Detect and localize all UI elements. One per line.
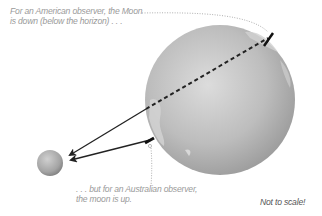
moon — [37, 150, 63, 176]
australian-observer-caption: . . . but for an Australian observer, th… — [76, 184, 197, 204]
diagram-canvas: For an American observer, the Moon is do… — [0, 0, 322, 216]
australian-caption-line2: the moon is up. — [76, 194, 197, 204]
earth — [145, 25, 295, 175]
scale-note: Not to scale! — [260, 197, 305, 207]
american-observer-caption: For an American observer, the Moon is do… — [10, 6, 142, 26]
earth-to-moon-arrow — [70, 109, 146, 155]
american-caption-line1: For an American observer, the Moon — [10, 6, 142, 16]
australian-leader-line — [151, 148, 152, 186]
australian-observer-marker — [148, 144, 151, 147]
australian-to-moon-arrow — [71, 140, 150, 160]
american-caption-line2: is down (below the horizon) . . . — [10, 16, 142, 26]
australian-caption-line1: . . . but for an Australian observer, — [76, 184, 197, 194]
